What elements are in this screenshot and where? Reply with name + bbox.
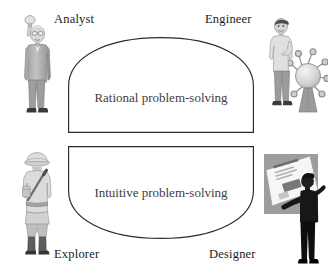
figure-engineer [258,14,328,124]
figure-explorer [12,150,66,258]
man-in-suit-holding-glass-icon [12,14,64,120]
person-presenting-board-icon [262,150,330,268]
figure-designer [262,150,330,268]
explorer-with-pith-helmet-and-backpack-icon [12,150,66,258]
zone-rational: Rational problem-solving [68,37,254,133]
diagram-canvas: Analyst Engineer Explorer Designer Ratio… [0,0,332,277]
role-label-designer: Designer [209,248,256,261]
zone-rational-label: Rational problem-solving [68,91,254,104]
zone-intuitive: Intuitive problem-solving [68,146,254,239]
man-with-machine-apparatus-icon [258,14,328,124]
zone-intuitive-label: Intuitive problem-solving [68,186,254,199]
figure-analyst [12,14,64,120]
role-label-engineer: Engineer [205,13,252,26]
zone-rational-outline [68,37,254,133]
